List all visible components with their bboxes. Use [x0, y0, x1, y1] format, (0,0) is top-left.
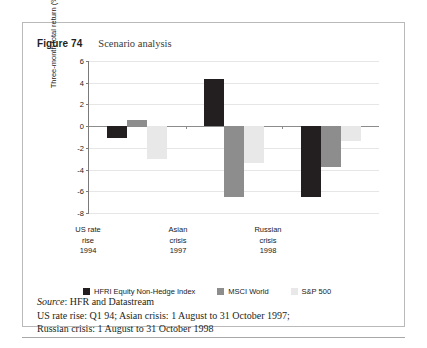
footnote-source-line: Source: HFR and Datastream	[37, 295, 397, 309]
plot-area: 6 4 2 0 -2 -4	[89, 61, 379, 213]
bar	[107, 126, 127, 138]
figure-box: Figure 74 Scenario analysis Three-month …	[22, 22, 405, 327]
gridline-minus8: -8	[89, 213, 379, 214]
figure-footnote: Source: HFR and Datastream US rate rise:…	[37, 295, 397, 336]
bar-group	[89, 61, 186, 213]
y-tick-label-6: 6	[80, 57, 84, 66]
bar	[321, 126, 341, 167]
y-tick-label-minus8: -8	[77, 209, 84, 218]
category-label-russian-crisis: Russian crisis 1998	[213, 225, 323, 257]
category-line: 1998	[213, 246, 323, 257]
legend-swatch-sp500	[291, 288, 298, 295]
bar	[224, 126, 244, 197]
y-tick-label-4: 4	[80, 78, 84, 87]
y-tick-label-minus4: -4	[77, 165, 84, 174]
y-tick-label-minus2: -2	[77, 143, 84, 152]
bar	[301, 126, 321, 197]
bar	[147, 126, 167, 159]
tick-mark-minus8	[86, 213, 89, 214]
category-line: Russian	[213, 225, 323, 236]
source-text: : HFR and Datastream	[64, 296, 154, 307]
y-tick-label-0: 0	[80, 122, 84, 131]
category-line: crisis	[213, 236, 323, 247]
chart-container: Three-month total return (%) 6 4 2 0	[23, 57, 406, 287]
footnote-line-2: US rate rise: Q1 94; Asian crisis: 1 Aug…	[37, 309, 397, 323]
bar-group	[186, 61, 283, 213]
y-tick-label-2: 2	[80, 100, 84, 109]
figure-number-label: Figure 74	[37, 38, 82, 49]
bar	[204, 79, 224, 126]
legend-swatch-hfri	[83, 288, 90, 295]
y-tick-label-minus6: -6	[77, 187, 84, 196]
source-word: Source	[37, 296, 64, 307]
bar	[127, 120, 147, 127]
x-tick-mark	[282, 126, 283, 129]
bar	[244, 126, 264, 163]
bar	[341, 126, 361, 141]
page-divider-rule	[22, 337, 405, 338]
footnote-line-3: Russian crisis: 1 August to 31 October 1…	[37, 322, 397, 336]
bar-group	[282, 61, 379, 213]
legend-swatch-msci	[217, 288, 224, 295]
figure-title: Scenario analysis	[98, 38, 171, 49]
x-tick-mark	[186, 126, 187, 129]
y-axis-title: Three-month total return (%)	[49, 0, 58, 101]
